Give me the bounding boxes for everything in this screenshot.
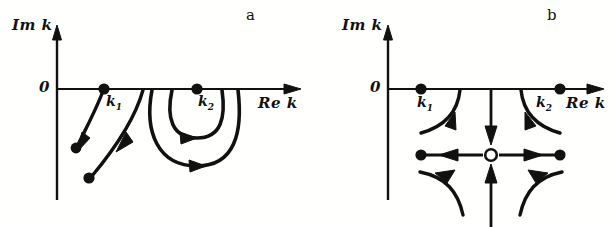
panel-a-point-label-k1: k1 <box>106 94 122 112</box>
panel-b-point-left-fixed <box>415 149 426 160</box>
panel-b-point-label-k2-sub: 2 <box>546 103 552 113</box>
panel-a-vertical-axis-label: Im k <box>12 18 53 33</box>
panel-b-point-k2 <box>554 83 565 94</box>
panel-a-point-label-k2: k2 <box>198 94 214 112</box>
panel-b-point-saddle-center <box>485 149 497 161</box>
panel-a-point-label-k2-base: k <box>198 93 208 109</box>
panel-a-point-label-k2-sub: 2 <box>208 102 214 112</box>
panel-b-horizontal-axis-label: Re k <box>566 96 606 111</box>
panel-a-point-label-k1-base: k <box>106 93 116 109</box>
panel-b-origin-label: 0 <box>370 80 380 95</box>
panel-b-point-label-k2-base: k <box>536 94 546 110</box>
panel-a-origin-label: 0 <box>39 80 49 95</box>
panel-b-arrowhead-horizontal-outflow-right <box>524 149 543 161</box>
panel-b: Im k 0 Re k k1 k2 b <box>308 0 616 227</box>
panel-a-endpoint-dot-2 <box>83 172 94 183</box>
panel-a-letter: a <box>246 8 255 23</box>
panel-a-arrowhead-inner-u-loop <box>180 132 197 144</box>
panel-b-arrowhead-horizontal-outflow-left <box>439 149 458 161</box>
panel-b-point-label-k1: k1 <box>417 95 433 113</box>
panel-a-trajectory-outer-u-loop <box>150 90 240 166</box>
panel-b-letter: b <box>547 8 557 23</box>
panel-a: Im k 0 Re k k1 k2 a <box>0 0 308 227</box>
panel-b-point-label-k1-sub: 1 <box>427 103 433 113</box>
panel-b-horizontal-axis-arrowhead <box>587 84 604 94</box>
panel-a-arrowhead-outer-u-loop <box>189 160 206 172</box>
panel-a-endpoint-dot-1 <box>71 143 82 154</box>
panel-b-canvas <box>308 0 616 227</box>
panel-b-arrowhead-vertical-inflow-from-below <box>485 164 497 183</box>
panel-a-horizontal-axis-label: Re k <box>258 96 298 111</box>
panel-b-point-label-k1-base: k <box>417 94 427 110</box>
panel-b-arrowhead-vertical-inflow-from-axis <box>485 126 497 145</box>
panel-a-vertical-axis-arrowhead <box>53 25 62 40</box>
panel-a-horizontal-axis-arrowhead <box>284 84 301 94</box>
panel-b-point-right-fixed <box>554 149 565 160</box>
panel-a-trajectory-inner-u-loop <box>170 90 223 138</box>
panel-a-canvas <box>0 0 308 227</box>
panel-b-vertical-axis-label: Im k <box>342 18 383 33</box>
panel-b-point-k1 <box>415 83 426 94</box>
panel-a-point-label-k1-sub: 1 <box>116 102 122 112</box>
panel-b-vertical-axis-arrowhead <box>384 25 393 40</box>
panel-b-point-label-k2: k2 <box>536 95 552 113</box>
figure-root: Im k 0 Re k k1 k2 a <box>0 0 616 227</box>
